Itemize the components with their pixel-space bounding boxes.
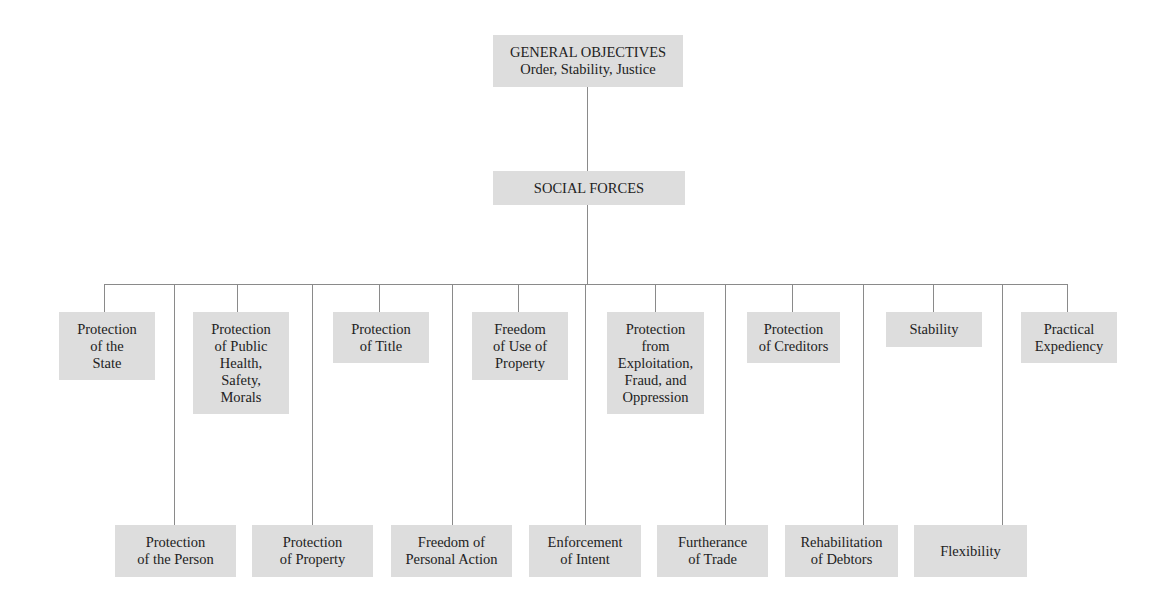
connector-lower-7 — [1002, 284, 1003, 525]
connector-lower-3 — [452, 284, 453, 525]
general-objectives-title: GENERAL OBJECTIVES — [510, 44, 666, 61]
upper-box-protection-of-creditors: Protection of Creditors — [747, 312, 840, 363]
lower-box-rehabilitation-of-debtors: Rehabilitation of Debtors — [785, 525, 898, 577]
connector-upper-4 — [518, 284, 519, 312]
connector-lower-6 — [863, 284, 864, 525]
upper-box-protection-from-exploitation: Protection from Exploitation, Fraud, and… — [607, 312, 704, 414]
connector-upper-3 — [379, 284, 380, 312]
general-objectives-subtitle: Order, Stability, Justice — [520, 61, 655, 78]
lower-box-protection-of-the-person: Protection of the Person — [115, 525, 236, 577]
lower-box-flexibility: Flexibility — [914, 525, 1027, 577]
connector-lower-1 — [174, 284, 175, 525]
connector-upper-7 — [933, 284, 934, 312]
connector-root-to-social — [587, 87, 588, 174]
upper-box-stability: Stability — [886, 312, 982, 347]
lower-box-protection-of-property: Protection of Property — [252, 525, 373, 577]
connector-upper-8 — [1067, 284, 1068, 312]
upper-box-protection-of-the-state: Protection of the State — [59, 312, 155, 380]
org-chart-diagram: GENERAL OBJECTIVES Order, Stability, Jus… — [0, 0, 1163, 606]
upper-box-freedom-of-use-of-property: Freedom of Use of Property — [472, 312, 568, 380]
upper-box-practical-expediency: Practical Expediency — [1021, 312, 1117, 363]
social-forces-title: SOCIAL FORCES — [534, 180, 644, 197]
connector-lower-5 — [725, 284, 726, 525]
connector-upper-2 — [237, 284, 238, 312]
connector-lower-2 — [312, 284, 313, 525]
general-objectives-box: GENERAL OBJECTIVES Order, Stability, Jus… — [493, 35, 683, 87]
connector-lower-4 — [585, 284, 586, 525]
lower-box-enforcement-of-intent: Enforcement of Intent — [529, 525, 641, 577]
lower-box-freedom-of-personal-action: Freedom of Personal Action — [391, 525, 512, 577]
connector-social-to-bus — [587, 205, 588, 284]
connector-upper-1 — [104, 284, 105, 312]
upper-box-protection-of-public-health: Protection of Public Health, Safety, Mor… — [193, 312, 289, 414]
connector-upper-6 — [792, 284, 793, 312]
connector-upper-5 — [655, 284, 656, 312]
social-forces-box: SOCIAL FORCES — [493, 171, 685, 205]
lower-box-furtherance-of-trade: Furtherance of Trade — [657, 525, 768, 577]
upper-box-protection-of-title: Protection of Title — [333, 312, 429, 363]
